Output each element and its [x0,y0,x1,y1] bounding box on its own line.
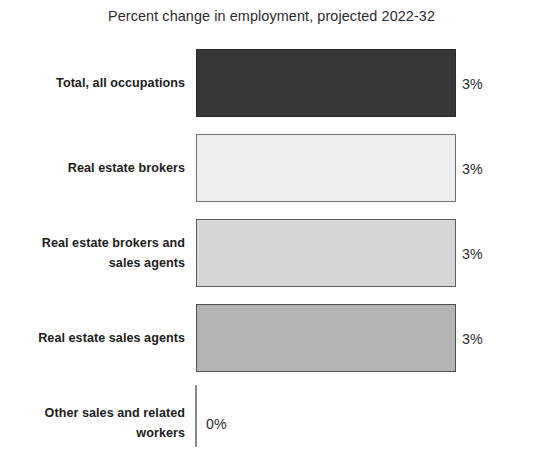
category-label-line: Real estate brokers [68,159,185,179]
bar-chart: Percent change in employment, projected … [0,0,543,469]
bar-row: Other sales and related workers 0% [0,381,543,466]
category-label: Real estate brokers and sales agents [0,211,185,296]
category-label: Total, all occupations [0,41,185,126]
bar-real-estate-sales-agents [196,304,456,372]
category-label: Real estate sales agents [0,296,185,381]
bar-value-label: 0% [206,381,227,466]
bar-row: Real estate brokers 3% [0,126,543,211]
bar-value-label: 3% [462,126,483,211]
category-label-line: workers [136,424,185,444]
bar-real-estate-brokers-and-sales-agents [196,219,456,287]
category-label: Other sales and related workers [0,381,185,466]
bar-value-label: 3% [462,211,483,296]
bar-row: Real estate sales agents 3% [0,296,543,381]
zero-axis-spine [195,385,197,447]
category-label-line: Total, all occupations [56,74,185,94]
bar-row: Total, all occupations 3% [0,41,543,126]
bar-value-label: 3% [462,296,483,381]
bar-total-all-occupations [196,49,456,117]
chart-title: Percent change in employment, projected … [0,8,543,24]
bar-value-label: 3% [462,41,483,126]
plot-area: Total, all occupations 3% Real estate br… [0,41,543,469]
category-label-line: Real estate brokers and [42,234,185,254]
category-label: Real estate brokers [0,126,185,211]
bar-real-estate-brokers [196,134,456,202]
category-label-line: sales agents [109,254,185,274]
category-label-line: Other sales and related [45,404,185,424]
bar-row: Real estate brokers and sales agents 3% [0,211,543,296]
category-label-line: Real estate sales agents [38,329,185,349]
